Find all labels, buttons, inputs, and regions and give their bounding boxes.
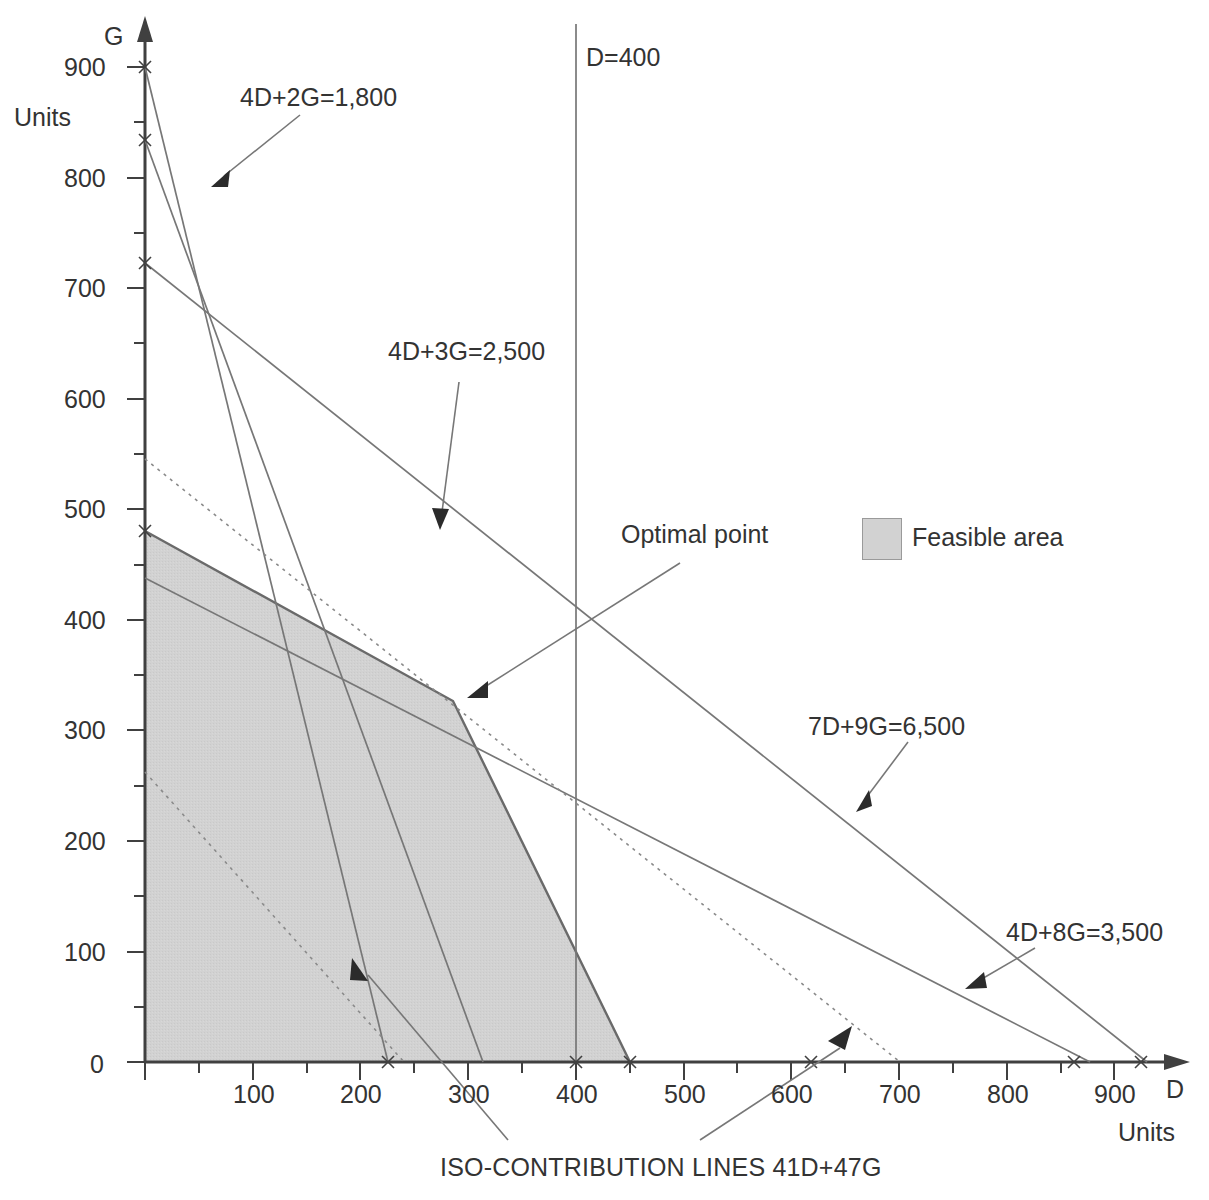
x-axis-name: D [1166, 1075, 1184, 1104]
x-axis-units-label: Units [1118, 1118, 1175, 1147]
y-tick-label-600: 600 [64, 385, 106, 414]
leader-line-4d2g [224, 115, 300, 176]
constraint-label-7d9g: 7D+9G=6,500 [808, 712, 965, 741]
linear-programming-chart: G Units D Units 0 100 200 300 400 500 60… [0, 0, 1209, 1200]
y-axis-ticks [127, 67, 145, 1062]
feasible-region [145, 531, 630, 1062]
plot-canvas [0, 0, 1209, 1200]
constraint-label-4d8g: 4D+8G=3,500 [1006, 918, 1163, 947]
feasible-area-swatch [862, 518, 902, 560]
y-tick-label-900: 900 [64, 53, 106, 82]
arrowhead-4d3g [432, 508, 449, 530]
x-tick-label-300: 300 [448, 1080, 490, 1109]
constraint-label-4d2g: 4D+2G=1,800 [240, 83, 397, 112]
iso-contribution-caption: ISO-CONTRIBUTION LINES 41D+47G [440, 1153, 882, 1182]
y-tick-label-700: 700 [64, 274, 106, 303]
x-tick-label-600: 600 [771, 1080, 813, 1109]
y-tick-label-400: 400 [64, 606, 106, 635]
x-axis-ticks [145, 1062, 1114, 1080]
y-axis-units-label: Units [14, 103, 71, 132]
constraint-label-4d3g: 4D+3G=2,500 [388, 337, 545, 366]
leader-line-optimal [483, 563, 680, 688]
feasible-area-label: Feasible area [912, 523, 1063, 552]
arrowhead-7d9g [856, 790, 872, 812]
leader-line-4d3g [442, 382, 459, 512]
arrowhead-iso-upper [828, 1026, 852, 1050]
y-tick-label-0: 0 [90, 1050, 104, 1079]
x-tick-label-700: 700 [879, 1080, 921, 1109]
y-axis-arrow [137, 16, 153, 42]
x-tick-label-400: 400 [556, 1080, 598, 1109]
x-tick-label-100: 100 [233, 1080, 275, 1109]
x-tick-label-200: 200 [340, 1080, 382, 1109]
y-tick-label-100: 100 [64, 938, 106, 967]
y-axis-name: G [104, 22, 123, 51]
arrowhead-optimal [467, 681, 488, 698]
optimal-point-label: Optimal point [621, 520, 768, 549]
leader-line-4d8g [980, 948, 1035, 980]
constraint-label-d400: D=400 [586, 43, 660, 72]
y-tick-label-300: 300 [64, 716, 106, 745]
y-tick-label-800: 800 [64, 164, 106, 193]
y-tick-label-500: 500 [64, 495, 106, 524]
leader-line-7d9g [866, 742, 908, 798]
x-tick-label-900: 900 [1094, 1080, 1136, 1109]
x-tick-label-800: 800 [987, 1080, 1029, 1109]
y-tick-label-200: 200 [64, 827, 106, 856]
x-tick-label-500: 500 [664, 1080, 706, 1109]
arrowhead-4d8g [965, 972, 987, 989]
x-axis-arrow [1164, 1054, 1190, 1070]
